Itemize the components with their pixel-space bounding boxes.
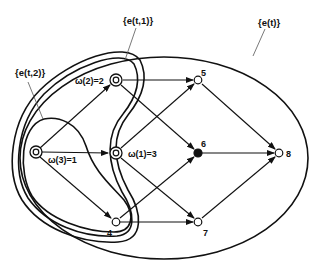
region-label-e-t1: {e(t,1)} xyxy=(123,15,153,26)
node-label-7: 7 xyxy=(203,228,208,238)
node-7 xyxy=(194,218,202,226)
node-6 xyxy=(194,149,202,157)
node-2 xyxy=(110,74,122,86)
node-label-3: ω(1)=3 xyxy=(128,149,157,159)
edge-3-5 xyxy=(121,84,194,148)
node-1 xyxy=(30,146,42,158)
edge-1-2 xyxy=(40,85,110,148)
edge-7-8 xyxy=(202,157,275,218)
edge-3-7 xyxy=(121,158,194,218)
edge-1-3 xyxy=(42,152,108,153)
edge-5-8 xyxy=(202,84,275,149)
node-3 xyxy=(110,147,122,159)
node-4 xyxy=(112,218,120,226)
region-label-e-t: {e(t)} xyxy=(258,17,280,28)
diagram-canvas: {e(t)} {e(t,1)} {e(t,2)} ω(3)=1 ω(2)=2 ω… xyxy=(0,0,315,274)
node-8 xyxy=(275,149,283,157)
node-label-2: ω(2)=2 xyxy=(75,76,104,86)
node-label-8: 8 xyxy=(286,149,291,159)
node-label-1: ω(3)=1 xyxy=(48,155,77,165)
leader-e-t xyxy=(253,29,265,56)
node-label-5: 5 xyxy=(201,68,206,78)
node-label-6: 6 xyxy=(201,139,206,149)
edge-1-4 xyxy=(40,157,111,218)
node-label-4: 4 xyxy=(107,228,112,238)
region-label-e-t2: {e(t,2)} xyxy=(15,67,45,78)
edge-2-6 xyxy=(121,85,194,149)
